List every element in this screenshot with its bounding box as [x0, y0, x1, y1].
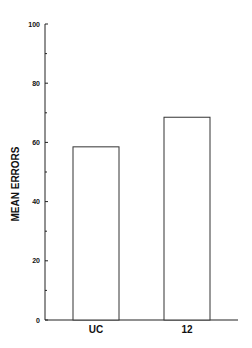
y-tick-label: 60 [32, 139, 40, 146]
bar-uc [73, 147, 119, 320]
y-axis-label: MEAN ERRORS [10, 146, 21, 221]
y-tick-label: 40 [32, 198, 40, 205]
bar-12 [164, 117, 210, 320]
y-tick-label: 0 [36, 317, 40, 324]
bars [73, 117, 210, 320]
x-tick-label: UC [89, 324, 103, 335]
y-tick-label: 100 [28, 21, 40, 28]
y-tick-label: 80 [32, 80, 40, 87]
y-tick-label: 20 [32, 257, 40, 264]
x-tick-label: 12 [181, 324, 193, 335]
bar-chart: 020406080100UC12MEAN ERRORS [0, 0, 252, 348]
